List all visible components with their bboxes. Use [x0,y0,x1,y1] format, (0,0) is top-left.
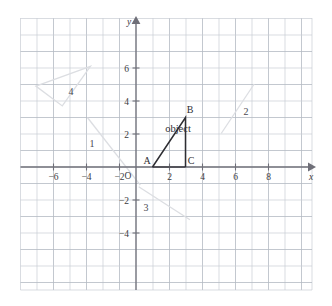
x-axis-name: x [308,172,314,182]
x-tick-label-8: 8 [266,172,271,182]
x-tick-label-6: 6 [233,172,238,182]
vertex-label-c: C [188,155,195,166]
faded-shape-2 [221,84,254,134]
x-axis-tick-labels: −6 −4 −2 2 4 6 8 [48,172,271,182]
x-tick-label-2: 2 [167,172,172,182]
shape-4-label: 4 [69,86,74,97]
coordinate-plane-figure: 4 1 3 2 −6 −4 −2 2 4 6 8 [0,0,332,306]
y-axis-name: y [126,17,132,27]
y-tick-label-6: 6 [124,64,129,74]
y-axis [132,16,141,290]
x-tick-label-neg4: −4 [81,172,91,182]
object-label: object [165,123,191,134]
faded-shape-4 [36,66,91,106]
vertex-label-b: B [187,104,194,115]
x-tick-label-4: 4 [200,172,205,182]
x-tick-label-neg2: −2 [114,172,124,182]
shape-1-label: 1 [90,138,95,149]
shape-3-label: 3 [144,202,149,213]
shape-2-label: 2 [244,106,249,117]
y-axis-tick-labels: 6 4 2 −2 −4 [119,64,129,239]
y-tick-label-neg2: −2 [119,196,129,206]
origin-label: O [125,171,132,181]
y-tick-label-neg4: −4 [119,229,129,239]
y-tick-label-2: 2 [124,130,129,140]
vertex-label-a: A [143,155,151,166]
y-tick-label-4: 4 [124,97,129,107]
grid-lines [21,18,313,290]
x-tick-label-neg6: −6 [48,172,58,182]
